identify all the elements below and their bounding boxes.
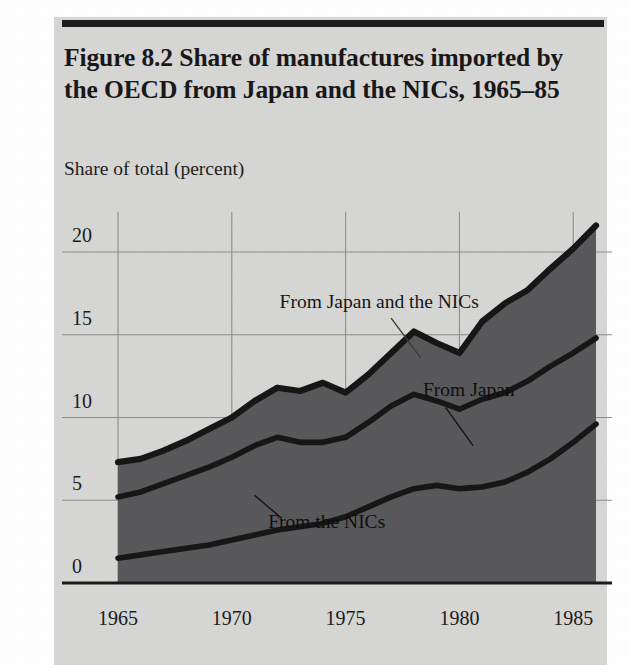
series-annotation-label: From Japan (423, 379, 515, 400)
y-tick-label: 15 (72, 307, 92, 329)
y-tick-label: 0 (72, 555, 82, 577)
series-annotation-label: From Japan and the NICs (280, 291, 479, 312)
figure-panel: Figure 8.2 Share of manufactures importe… (0, 0, 629, 665)
area-chart: 05101520 19651970197519801985 From Japan… (0, 0, 629, 665)
x-tick-label: 1965 (98, 607, 138, 629)
y-tick-label: 10 (72, 390, 92, 412)
x-axis-tick-labels: 19651970197519801985 (98, 607, 593, 629)
series-annotation-label: From the NICs (268, 511, 385, 532)
x-tick-label: 1980 (439, 607, 479, 629)
y-tick-label: 5 (72, 472, 82, 494)
x-tick-label: 1975 (326, 607, 366, 629)
y-axis-tick-labels: 05101520 (72, 224, 92, 577)
y-tick-label: 20 (72, 224, 92, 246)
x-tick-label: 1970 (212, 607, 252, 629)
x-tick-label: 1985 (553, 607, 593, 629)
